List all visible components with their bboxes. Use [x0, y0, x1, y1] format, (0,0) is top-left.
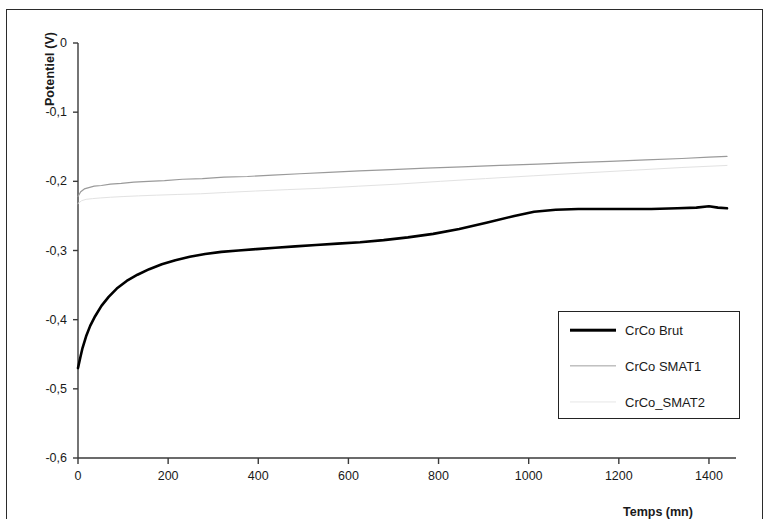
legend-item: CrCo_SMAT2 — [559, 384, 739, 420]
x-tick-label: 200 — [158, 469, 179, 483]
y-tick-label: -0,1 — [7, 105, 67, 119]
legend-line-glyph — [570, 401, 616, 402]
x-tick-label: 1000 — [515, 469, 543, 483]
legend-line-swatch — [570, 396, 616, 408]
x-tick-label: 1200 — [605, 469, 633, 483]
x-tick-label: 1400 — [695, 469, 723, 483]
chart-container: Potentiel (V) Temps (mn) 0-0,1-0,2-0,3-0… — [0, 0, 770, 524]
legend-line-glyph — [570, 365, 616, 366]
y-tick-label: -0,5 — [7, 382, 67, 396]
chart-frame: Potentiel (V) Temps (mn) 0-0,1-0,2-0,3-0… — [6, 9, 763, 519]
legend-line-swatch — [570, 324, 616, 336]
y-tick-label: -0,3 — [7, 244, 67, 258]
legend-line-glyph — [570, 329, 616, 332]
x-tick-label: 0 — [75, 469, 82, 483]
legend-item: CrCo Brut — [559, 312, 739, 348]
y-tick-label: -0,4 — [7, 313, 67, 327]
legend-line-swatch — [570, 360, 616, 372]
legend-item: CrCo SMAT1 — [559, 348, 739, 384]
x-tick-label: 400 — [248, 469, 269, 483]
series-line-crco-smat2 — [78, 165, 727, 203]
y-tick-label: -0,2 — [7, 174, 67, 188]
legend-item-label: CrCo_SMAT2 — [625, 395, 705, 410]
series-line-crco-smat1 — [78, 156, 727, 196]
x-tick-label: 600 — [338, 469, 359, 483]
y-tick-label: -0,6 — [7, 451, 67, 465]
legend-item-label: CrCo Brut — [625, 323, 683, 338]
y-tick-label: 0 — [7, 36, 67, 50]
plot-area — [7, 10, 764, 520]
legend-item-label: CrCo SMAT1 — [625, 359, 701, 374]
chart-legend: CrCo BrutCrCo SMAT1CrCo_SMAT2 — [558, 311, 740, 419]
x-axis-title: Temps (mn) — [623, 505, 693, 519]
x-tick-label: 800 — [428, 469, 449, 483]
